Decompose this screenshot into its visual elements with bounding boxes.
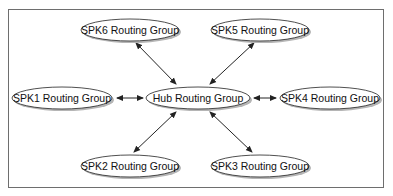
edge-hub-spk6 <box>136 43 176 84</box>
edge-hub-spk5 <box>210 43 254 84</box>
node-label: SPK5 Routing Group <box>211 24 309 36</box>
edge-hub-spk2 <box>134 112 176 152</box>
node-label: SPK3 Routing Group <box>211 160 309 172</box>
node-spk6: SPK6 Routing Group <box>81 19 181 43</box>
node-spk2: SPK2 Routing Group <box>81 155 181 179</box>
node-spk5: SPK5 Routing Group <box>211 19 311 43</box>
routing-diagram: SPK6 Routing Group SPK5 Routing Group SP… <box>0 0 393 196</box>
node-spk1: SPK1 Routing Group <box>12 87 114 111</box>
node-label: SPK4 Routing Group <box>281 92 379 104</box>
node-hub: Hub Routing Group <box>146 87 252 111</box>
node-label: SPK1 Routing Group <box>13 92 111 104</box>
edge-hub-spk3 <box>210 112 252 152</box>
node-label: SPK2 Routing Group <box>81 160 179 172</box>
node-spk3: SPK3 Routing Group <box>211 155 311 179</box>
node-label: Hub Routing Group <box>153 92 244 104</box>
node-spk4: SPK4 Routing Group <box>280 87 382 111</box>
node-label: SPK6 Routing Group <box>81 24 179 36</box>
